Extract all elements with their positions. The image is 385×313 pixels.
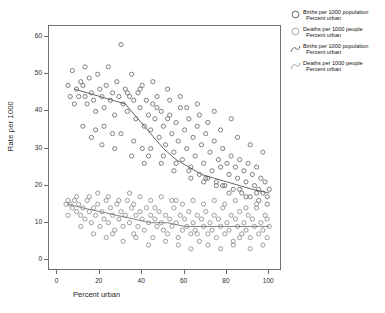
- data-point: [83, 94, 87, 98]
- data-point: [106, 65, 110, 69]
- data-point: [265, 217, 269, 221]
- data-point: [159, 109, 163, 113]
- data-point: [100, 143, 104, 147]
- data-point: [117, 217, 121, 221]
- data-point: [178, 106, 182, 110]
- data-point: [94, 213, 98, 217]
- data-point: [102, 217, 106, 221]
- data-point: [151, 235, 155, 239]
- series-points-births: [66, 42, 271, 206]
- x-tick-mark: [99, 270, 100, 274]
- data-point: [176, 139, 180, 143]
- legend-label: Deaths per 1000 peoplePercent urban: [303, 25, 363, 39]
- data-point: [83, 65, 87, 69]
- data-point: [155, 224, 159, 228]
- data-point: [149, 198, 153, 202]
- data-point: [199, 217, 203, 221]
- data-point: [244, 206, 248, 210]
- data-point: [168, 217, 172, 221]
- legend-label-line2: Percent urban: [303, 32, 363, 38]
- data-point: [81, 124, 85, 128]
- data-point: [242, 221, 246, 225]
- data-point: [246, 213, 250, 217]
- data-point: [180, 158, 184, 162]
- legend-label-line1: Births per 1000 population: [303, 43, 368, 49]
- data-point: [250, 172, 254, 176]
- data-point: [195, 124, 199, 128]
- x-tick-label: 20: [86, 277, 112, 284]
- data-point: [235, 176, 239, 180]
- data-point: [136, 224, 140, 228]
- data-point: [195, 232, 199, 236]
- data-point: [208, 150, 212, 154]
- data-point: [227, 228, 231, 232]
- data-point: [138, 210, 142, 214]
- data-point: [119, 42, 123, 46]
- data-point: [104, 235, 108, 239]
- data-point: [195, 213, 199, 217]
- data-point: [261, 243, 265, 247]
- y-tick-mark: [44, 73, 48, 74]
- data-point: [149, 146, 153, 150]
- data-point: [168, 98, 172, 102]
- y-tick-mark: [44, 185, 48, 186]
- data-point: [218, 247, 222, 251]
- open-circle-light-icon: [290, 25, 303, 38]
- data-point: [189, 176, 193, 180]
- data-point: [172, 169, 176, 173]
- data-point: [248, 247, 252, 251]
- y-tick-label: 40: [20, 106, 42, 113]
- data-point: [227, 191, 231, 195]
- y-tick-label: 60: [20, 32, 42, 39]
- data-point: [130, 72, 134, 76]
- x-tick-label: 40: [128, 277, 154, 284]
- data-point: [134, 235, 138, 239]
- data-point: [83, 217, 87, 221]
- data-point: [130, 154, 134, 158]
- data-point: [261, 228, 265, 232]
- data-point: [155, 94, 159, 98]
- data-point: [144, 206, 148, 210]
- data-point: [159, 161, 163, 165]
- data-point: [142, 228, 146, 232]
- data-point: [182, 217, 186, 221]
- data-point: [242, 169, 246, 173]
- data-point: [104, 83, 108, 87]
- data-point: [161, 124, 165, 128]
- data-point: [227, 172, 231, 176]
- data-point: [225, 221, 229, 225]
- data-point: [174, 198, 178, 202]
- data-point: [223, 232, 227, 236]
- open-circle-dark-icon: [290, 8, 303, 21]
- data-point: [132, 202, 136, 206]
- data-point: [216, 158, 220, 162]
- data-point: [265, 195, 269, 199]
- data-point: [229, 117, 233, 121]
- data-point: [191, 198, 195, 202]
- data-point: [117, 94, 121, 98]
- data-point: [108, 206, 112, 210]
- cropped-top-edge: [0, 0, 385, 5]
- chart-legend: Births per 1000 populationPercent urbanD…: [290, 8, 385, 76]
- data-point: [142, 161, 146, 165]
- data-point: [132, 139, 136, 143]
- data-point: [98, 224, 102, 228]
- data-point: [238, 210, 242, 214]
- y-tick-label: 10: [20, 218, 42, 225]
- data-point: [166, 232, 170, 236]
- x-tick-mark: [268, 270, 269, 274]
- data-point: [208, 221, 212, 225]
- data-point: [206, 232, 210, 236]
- data-point: [115, 80, 119, 84]
- data-point: [94, 109, 98, 113]
- data-point: [218, 165, 222, 169]
- data-point: [212, 198, 216, 202]
- data-point: [191, 221, 195, 225]
- data-point: [197, 113, 201, 117]
- data-point: [153, 217, 157, 221]
- data-point: [172, 206, 176, 210]
- data-point: [138, 87, 142, 91]
- legend-label-line2: Percent urban: [303, 49, 368, 55]
- data-point: [202, 161, 206, 165]
- x-tick-mark: [56, 270, 57, 274]
